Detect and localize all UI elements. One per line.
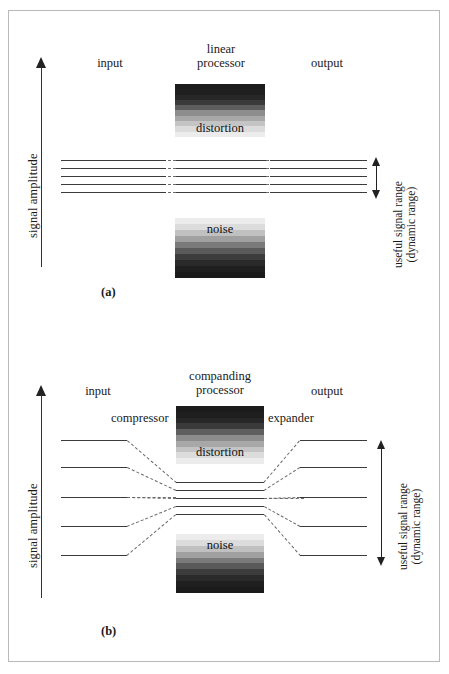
distortion-block-label: distortion: [176, 445, 264, 460]
gradient-band: [176, 587, 264, 593]
noise-block-label: noise: [175, 222, 265, 237]
range-arrow-head-down: [372, 190, 380, 199]
signal-line-input: [61, 192, 166, 193]
compressor-label: compressor: [110, 411, 170, 426]
y-axis-label: signal amplitude: [26, 483, 41, 568]
dynamic-range-label-line2: (dynamic range): [410, 483, 423, 570]
signal-line-output: [300, 526, 367, 527]
signal-line-output: [300, 497, 367, 498]
processor-label-line2: processor: [172, 383, 268, 397]
signal-line-processor: [176, 176, 266, 177]
signal-line-processor: [176, 498, 264, 499]
figure-page: signal amplitude input linear processor …: [0, 0, 449, 674]
signal-line-processor: [176, 160, 266, 161]
gradient-band: [175, 272, 265, 278]
signal-line-input: [61, 555, 127, 556]
expander-slope-line: [263, 514, 300, 556]
signal-line-input: [61, 440, 127, 441]
dynamic-range-label: useful signal range (dynamic range): [397, 483, 423, 570]
dynamic-range-label-line2: (dynamic range): [405, 181, 418, 268]
dynamic-range-label: useful signal range (dynamic range): [392, 181, 418, 268]
compressor-slope-line: [126, 440, 176, 484]
panel-caption-a: (a): [101, 285, 116, 300]
compressor-slope-line: [126, 514, 176, 557]
dynamic-range-label-line1: useful signal range: [397, 483, 410, 570]
noise-block-label: noise: [176, 538, 264, 553]
panel-linear-processor: signal amplitude input linear processor …: [0, 0, 449, 340]
processor-label-line1: companding: [172, 369, 268, 383]
signal-line-output: [270, 184, 367, 185]
signal-line-output: [270, 160, 367, 161]
signal-line-processor: [176, 506, 264, 507]
column-head-processor: linear processor: [175, 42, 267, 70]
range-arrow-head-down: [377, 557, 385, 566]
signal-line-input: [61, 160, 166, 161]
expander-slope-line: [263, 467, 300, 492]
panel-caption-b: (b): [101, 624, 116, 639]
column-head-processor: companding processor: [172, 369, 268, 397]
signal-line-input: [61, 467, 127, 468]
signal-line-dashed-out-mid: [264, 498, 304, 499]
distortion-block-label: distortion: [175, 121, 265, 136]
signal-line-input: [61, 184, 166, 185]
signal-line-output: [300, 555, 367, 556]
signal-line-output: [270, 176, 367, 177]
range-arrow-line: [376, 164, 377, 192]
signal-line-input: [61, 176, 166, 177]
dynamic-range-label-line1: useful signal range: [392, 181, 405, 268]
signal-line-processor: [176, 184, 266, 185]
signal-line-input: [61, 168, 166, 169]
signal-line-processor: [176, 168, 266, 169]
processor-label-line2: processor: [175, 56, 267, 70]
signal-line-dashed-in-mid: [127, 497, 176, 498]
signal-line-output: [270, 168, 367, 169]
signal-line-processor: [176, 514, 264, 515]
y-axis-label: signal amplitude: [26, 153, 41, 238]
compressor-slope-line: [127, 506, 177, 528]
panel-companding-processor: signal amplitude input companding proces…: [0, 340, 449, 674]
signal-line-output: [300, 440, 367, 441]
column-head-output: output: [292, 56, 362, 70]
signal-line-input: [61, 526, 127, 527]
compressor-slope-line: [127, 467, 177, 492]
expander-slope-line: [264, 506, 301, 528]
processor-label-line1: linear: [175, 42, 267, 56]
range-arrow-line: [381, 447, 382, 559]
column-head-input: input: [63, 384, 133, 398]
column-head-input: input: [75, 56, 145, 70]
signal-line-processor: [176, 490, 264, 491]
column-head-output: output: [292, 384, 362, 398]
signal-line-input: [61, 497, 127, 498]
expander-label: expander: [267, 411, 315, 426]
signal-line-processor: [176, 192, 266, 193]
signal-line-processor: [176, 482, 264, 483]
signal-line-output: [300, 467, 367, 468]
signal-line-output: [270, 192, 367, 193]
